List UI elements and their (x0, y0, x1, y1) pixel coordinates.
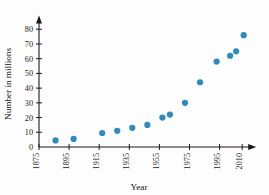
x-tick-label: 1935 (122, 153, 131, 169)
x-tick-label: 2010 (235, 153, 244, 169)
y-tick-label: 40 (25, 84, 33, 93)
data-point (114, 128, 120, 134)
y-tick-label: 0 (29, 143, 33, 152)
x-axis-ticks: 18751895191519351955197519952010 (32, 144, 244, 169)
y-tick-label: 80 (25, 25, 33, 34)
y-tick-label: 20 (25, 114, 33, 123)
data-points (52, 32, 246, 143)
data-point (52, 137, 58, 143)
y-tick-label: 50 (25, 69, 33, 78)
data-point (197, 79, 203, 85)
data-point (159, 114, 165, 120)
x-tick-label: 1875 (32, 153, 41, 169)
x-tick-label: 1915 (92, 153, 101, 169)
data-point (182, 100, 188, 106)
chart-figure: 18751895191519351955197519952010 0102030… (0, 0, 269, 195)
axes (36, 15, 256, 150)
y-tick-label: 30 (25, 99, 33, 108)
data-point (167, 112, 173, 118)
scatter-plot: 18751895191519351955197519952010 0102030… (0, 0, 269, 195)
data-point (144, 122, 150, 128)
data-point (129, 125, 135, 131)
x-tick-label: 1995 (213, 153, 222, 169)
data-point (233, 48, 239, 54)
x-tick-label: 1975 (183, 153, 192, 169)
y-tick-label: 10 (25, 128, 33, 137)
y-axis-title: Number in millions (3, 48, 13, 120)
data-point (241, 32, 247, 38)
data-point (227, 53, 233, 59)
x-tick-label: 1955 (152, 153, 161, 169)
data-point (71, 136, 77, 142)
data-point (213, 59, 219, 65)
y-tick-label: 60 (25, 55, 33, 64)
y-tick-label: 70 (25, 40, 33, 49)
x-tick-label: 1895 (62, 153, 71, 169)
x-axis-title: Year (131, 182, 148, 192)
data-point (99, 130, 105, 136)
